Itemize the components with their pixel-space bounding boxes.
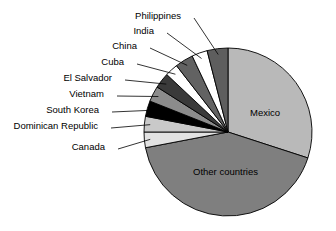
leader-line-china [150, 48, 187, 65]
callout-label-vietnam: Vietnam [69, 89, 104, 99]
callout-label-philippines: Philippines [135, 11, 181, 21]
leader-line-cuba [137, 64, 175, 74]
callout-label-south-korea: South Korea [46, 105, 99, 115]
callout-label-dominican-republic: Dominican Republic [14, 121, 98, 131]
callout-label-china: China [112, 41, 137, 51]
callout-label-canada: Canada [72, 142, 105, 152]
slice-label-other-countries: Other countries [193, 167, 258, 177]
slice-label-mexico: Mexico [250, 108, 280, 118]
callout-label-india: India [133, 26, 154, 36]
pie-slice-group [144, 48, 312, 216]
pie-chart-figure: Mexico Other countries Philippines India… [0, 0, 336, 231]
callout-label-el-salvador: El Salvador [63, 73, 112, 83]
leader-line-philippines [194, 18, 218, 55]
leader-line-india [167, 33, 202, 59]
callout-label-cuba: Cuba [101, 57, 124, 67]
leader-line-vietnam [117, 96, 158, 97]
pie-chart-svg [0, 0, 336, 231]
